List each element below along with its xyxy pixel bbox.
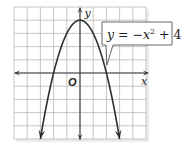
y-axis-label: y	[84, 7, 92, 20]
equation-prefix: y = −x	[106, 27, 150, 42]
x-axis-label: x	[141, 75, 148, 88]
equation-suffix: + 4	[155, 27, 181, 42]
parabola-graph: y = −x2 + 4 y x O	[0, 0, 181, 151]
origin-label: O	[68, 76, 77, 88]
equation-label: y = −x2 + 4	[106, 27, 181, 42]
